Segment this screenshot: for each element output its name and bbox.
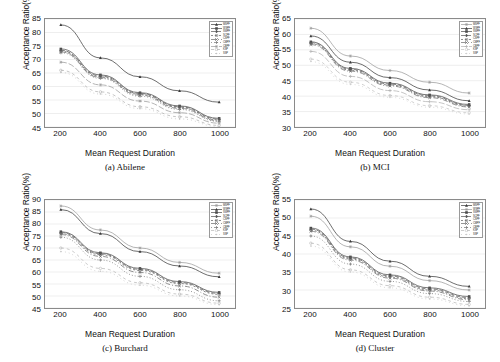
data-point bbox=[178, 261, 181, 264]
y-tick-label: 60 bbox=[32, 268, 41, 277]
legend-swatch-icon bbox=[461, 48, 472, 51]
data-point bbox=[309, 50, 312, 53]
plot-svg-b bbox=[295, 19, 485, 127]
series-line bbox=[311, 216, 469, 290]
legend-swatch-icon bbox=[461, 208, 472, 211]
legend-swatch-icon bbox=[461, 34, 472, 37]
y-tick-label: 45 bbox=[32, 124, 41, 133]
x-tick-label: 800 bbox=[173, 129, 186, 138]
data-point bbox=[218, 272, 221, 275]
data-point bbox=[429, 298, 431, 300]
y-tick-label: 45 bbox=[32, 305, 41, 314]
y-tick-label: 50 bbox=[32, 110, 41, 119]
x-tick-label: 600 bbox=[383, 129, 396, 138]
data-point bbox=[465, 215, 468, 218]
data-point bbox=[466, 234, 468, 236]
x-axis-label-c: Mean Request Duration bbox=[30, 329, 230, 339]
x-tick-label: 200 bbox=[53, 129, 66, 138]
legend-item[interactable]: SSP bbox=[461, 52, 480, 56]
series-line bbox=[61, 25, 219, 102]
data-point bbox=[468, 91, 471, 94]
y-tick-label: 55 bbox=[32, 280, 41, 289]
data-point bbox=[215, 27, 218, 30]
data-point bbox=[349, 263, 352, 266]
data-point bbox=[179, 118, 181, 120]
y-tick-label: 65 bbox=[282, 14, 291, 23]
x-tick-label: 400 bbox=[93, 310, 106, 319]
plot-area-c: MSPFWSPFSWPFSCPFCSPFCMPFCBPFKSPSSP bbox=[44, 199, 236, 309]
y-tick-label: 50 bbox=[282, 213, 291, 222]
y-tick-label: 65 bbox=[32, 256, 41, 265]
y-tick-label: 80 bbox=[32, 219, 41, 228]
legend-swatch-icon bbox=[211, 233, 222, 236]
data-point bbox=[309, 215, 312, 218]
y-tick-label: 40 bbox=[282, 250, 291, 259]
x-ticks-a: 2004006008001000 bbox=[44, 129, 236, 143]
data-point bbox=[99, 83, 102, 86]
legend-swatch-icon bbox=[211, 41, 222, 44]
legend-label: SSP bbox=[473, 52, 478, 55]
legend-a[interactable]: MSPFWSPFSWPFSCPFCSPFCMPFCBPFKSPSSP bbox=[209, 21, 233, 57]
legend-c[interactable]: MSPFWSPFSWPFSCPFCSPFCMPFCBPFKSPSSP bbox=[209, 202, 233, 238]
legend-item[interactable]: SSP bbox=[211, 233, 230, 237]
caption-a: (a) Abilene bbox=[0, 162, 250, 172]
y-tick-label: 25 bbox=[282, 305, 291, 314]
data-point bbox=[138, 100, 141, 103]
data-point bbox=[465, 212, 468, 215]
plot-area-d: MSPFWSPFSWPFSCPFCSPFCMPFCBPFKSPSSP bbox=[294, 199, 486, 309]
legend-swatch-icon bbox=[461, 45, 472, 48]
x-ticks-d: 2004006008001000 bbox=[294, 310, 486, 324]
legend-swatch-icon bbox=[211, 45, 222, 48]
series-mspf bbox=[59, 23, 220, 103]
x-tick-label: 600 bbox=[133, 129, 146, 138]
legend-swatch-icon bbox=[211, 34, 222, 37]
x-tick-label: 800 bbox=[423, 310, 436, 319]
legend-swatch-icon bbox=[211, 204, 222, 207]
legend-b[interactable]: MSPFWSPFSWPFSCPFCSPFCMPFCBPFKSPSSP bbox=[459, 21, 483, 57]
data-point bbox=[99, 228, 102, 231]
legend-swatch-icon bbox=[211, 226, 222, 229]
legend-swatch-icon bbox=[461, 211, 472, 214]
series-line bbox=[61, 53, 219, 122]
data-point bbox=[99, 255, 102, 258]
figure-grid: Acceptance Ratio(%) 455055606570758085 M… bbox=[0, 0, 500, 362]
data-point bbox=[349, 54, 352, 57]
caption-b: (b) MCI bbox=[250, 162, 500, 172]
x-axis-label-a: Mean Request Duration bbox=[30, 148, 230, 158]
x-ticks-c: 2004006008001000 bbox=[44, 310, 236, 324]
y-tick-label: 35 bbox=[282, 108, 291, 117]
chart-panel-b: Acceptance Ratio(%) 3035404550556065 MSP… bbox=[250, 0, 500, 181]
legend-item[interactable]: SSP bbox=[211, 52, 230, 56]
x-tick-label: 1000 bbox=[211, 310, 229, 319]
legend-swatch-icon bbox=[211, 38, 222, 41]
series-line bbox=[61, 72, 219, 126]
data-point bbox=[215, 215, 218, 218]
legend-d[interactable]: MSPFWSPFSWPFSCPFCSPFCMPFCBPFKSPSSP bbox=[459, 202, 483, 238]
y-tick-label: 75 bbox=[32, 41, 41, 50]
legend-label: SSP bbox=[473, 233, 478, 236]
data-point bbox=[468, 108, 471, 111]
data-point bbox=[466, 53, 468, 55]
series-line bbox=[61, 232, 219, 293]
legend-item[interactable]: SSP bbox=[461, 233, 480, 237]
data-point bbox=[468, 113, 470, 115]
data-point bbox=[59, 61, 62, 64]
legend-swatch-icon bbox=[211, 229, 222, 232]
legend-swatch-icon bbox=[211, 208, 222, 211]
data-point bbox=[215, 204, 218, 207]
y-tick-label: 70 bbox=[32, 243, 41, 252]
x-ticks-b: 2004006008001000 bbox=[294, 129, 486, 143]
y-tick-label: 45 bbox=[282, 231, 291, 240]
data-point bbox=[100, 270, 102, 272]
x-axis-label-b: Mean Request Duration bbox=[280, 148, 480, 158]
chart-panel-c: Acceptance Ratio(%) 45505560657075808590… bbox=[0, 181, 250, 362]
plot-svg-c bbox=[45, 200, 235, 308]
data-point bbox=[465, 34, 468, 37]
y-tick-label: 45 bbox=[282, 76, 291, 85]
legend-swatch-icon bbox=[461, 219, 472, 222]
x-tick-label: 1000 bbox=[461, 310, 479, 319]
series-cmpf bbox=[59, 51, 221, 123]
legend-swatch-icon bbox=[211, 222, 222, 225]
data-point bbox=[388, 89, 391, 92]
data-point bbox=[388, 69, 391, 72]
